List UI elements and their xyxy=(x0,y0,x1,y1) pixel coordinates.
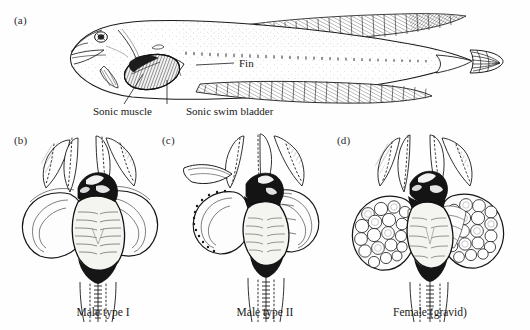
caption-male-type-ii: Male type II xyxy=(190,306,340,318)
caption-male-type-i: Male type I xyxy=(28,306,178,318)
panel-letter-b: (b) xyxy=(14,134,27,146)
fish-eye xyxy=(95,32,108,42)
panel-letter-c: (c) xyxy=(162,134,175,146)
fin-label: Fin xyxy=(239,57,254,69)
sonic-swim-bladder-label: Sonic swim bladder xyxy=(186,105,273,117)
male-type-ii-illustration xyxy=(183,134,318,322)
male-type-i-illustration xyxy=(22,136,157,322)
sonic-muscle-label: Sonic muscle xyxy=(93,105,152,117)
caption-female-gravid: Female (gravid) xyxy=(355,306,505,318)
female-gravid-illustration xyxy=(352,135,503,322)
fish-lateral-illustration xyxy=(70,14,503,104)
figure-artwork xyxy=(0,0,530,330)
panel-letter-d: (d) xyxy=(337,134,350,146)
figure-root: (a) xyxy=(0,0,530,330)
